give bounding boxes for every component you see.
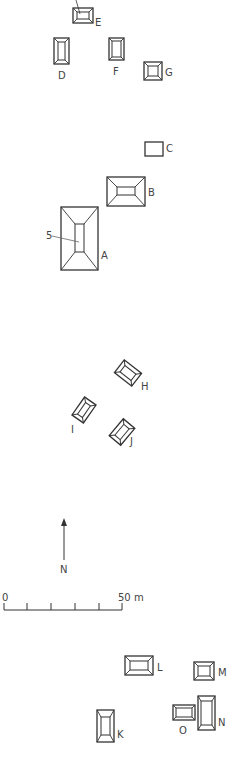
structure-n — [198, 696, 215, 730]
structure-h — [114, 360, 141, 386]
structure-label-a: A — [101, 251, 108, 261]
feature-label-5: 5 — [46, 231, 52, 241]
structure-label-f: F — [113, 67, 119, 77]
structure-l — [125, 656, 153, 675]
structure-label-k: K — [117, 730, 124, 740]
structure-f — [109, 38, 124, 60]
scale-bar — [4, 603, 122, 610]
scale-start-label: 0 — [2, 593, 8, 603]
structure-label-c: C — [166, 144, 173, 154]
structure-c — [145, 142, 163, 156]
structure-o — [173, 705, 195, 720]
structure-k — [97, 710, 114, 742]
site-map — [0, 0, 239, 762]
structure-label-n: N — [218, 718, 225, 728]
structure-e — [73, 8, 93, 23]
structure-label-j: J — [130, 437, 133, 447]
north-arrow-icon — [61, 518, 67, 560]
structure-label-l: L — [157, 663, 163, 673]
structure-i — [72, 397, 96, 423]
structure-label-h: H — [141, 382, 149, 392]
structure-a — [61, 207, 98, 270]
structure-m — [194, 662, 214, 680]
structure-label-m: M — [218, 668, 227, 678]
structure-label-b: B — [148, 188, 155, 198]
scale-end-label: 50 m — [118, 593, 144, 603]
structure-g — [144, 62, 162, 80]
structure-d — [54, 38, 69, 64]
structure-label-o: O — [179, 726, 187, 736]
structure-label-g: G — [165, 68, 173, 78]
structure-label-i: I — [71, 425, 74, 435]
north-label: N — [60, 565, 67, 575]
structure-label-d: D — [58, 71, 66, 81]
structure-label-e: E — [95, 18, 101, 28]
structure-b — [107, 177, 145, 206]
